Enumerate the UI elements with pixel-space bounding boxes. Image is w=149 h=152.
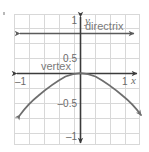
ytick-label-neg-1: –1 xyxy=(66,131,78,142)
xtick-label-neg-1: –1 xyxy=(15,76,27,87)
x-axis-label: x xyxy=(130,74,136,86)
xtick-label-1: 1 xyxy=(122,76,128,87)
vertex-label: vertex xyxy=(41,60,71,72)
directrix-label: directrix xyxy=(85,20,124,32)
ytick-label-neg-0-5: –0.5 xyxy=(58,98,78,109)
image-speck xyxy=(3,12,5,15)
graph-canvas: y x 1 0.5 –0.5 –1 –1 1 directrix vertex xyxy=(0,0,149,152)
parabola-figure: y x 1 0.5 –0.5 –1 –1 1 directrix vertex xyxy=(0,0,149,152)
ytick-label-1: 1 xyxy=(71,15,77,26)
